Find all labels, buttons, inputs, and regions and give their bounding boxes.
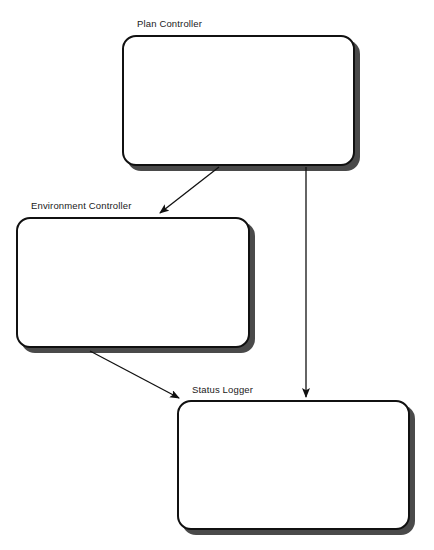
edge-environment-to-status (90, 351, 179, 398)
diagram-canvas: Plan Controller Environment Controller S… (0, 0, 434, 550)
node-status-logger[interactable] (177, 400, 410, 530)
node-body[interactable] (177, 400, 410, 530)
node-body[interactable] (122, 35, 355, 166)
edge-plan-to-environment (160, 167, 219, 213)
node-environment-controller[interactable] (16, 217, 250, 348)
node-label-environment-controller: Environment Controller (31, 200, 131, 211)
node-label-status-logger: Status Logger (192, 384, 253, 395)
node-body[interactable] (16, 217, 250, 348)
node-plan-controller[interactable] (122, 35, 355, 166)
node-label-plan-controller: Plan Controller (137, 18, 202, 29)
